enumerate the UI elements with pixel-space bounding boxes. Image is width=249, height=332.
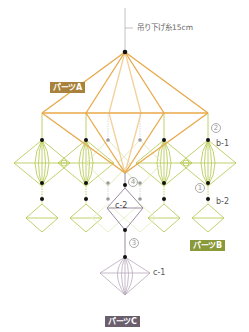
b2-diamond-3 (148, 204, 180, 232)
b2-diamond-2 (70, 204, 102, 232)
c1-label: c-1 (153, 269, 165, 277)
mobile-diagram: 吊り下げ糸15cm パーツA パーツB パーツC b-1 b-2 c-1 c-2… (0, 0, 249, 332)
diagram-drawing (0, 0, 249, 332)
c2-label: c-2 (115, 202, 127, 210)
step-4-marker: 4 (128, 177, 138, 187)
hanging-string (125, 8, 133, 52)
b2-diamond-4 (192, 204, 224, 232)
part-a-group (42, 52, 208, 173)
b2-label: b-2 (216, 198, 229, 206)
c1-diamond (100, 257, 150, 295)
step-1-marker: 1 (195, 183, 205, 193)
b2-diamond-1 (26, 204, 58, 232)
part-c-group (100, 173, 150, 295)
step-2-marker: 2 (211, 123, 221, 133)
part-b-tag: パーツB (190, 240, 225, 251)
b1-label: b-1 (216, 140, 229, 148)
string-length-label: 吊り下げ糸15cm (137, 24, 193, 32)
part-a-tag: パーツA (50, 82, 85, 93)
part-c-tag: パーツC (105, 316, 140, 327)
step-3-marker: 3 (129, 238, 139, 248)
